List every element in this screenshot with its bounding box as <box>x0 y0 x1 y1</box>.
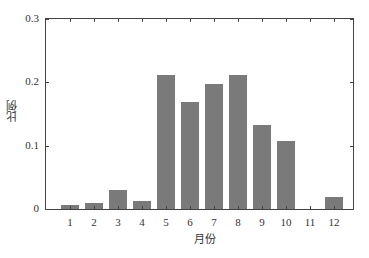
x-tick-label: 7 <box>204 216 224 228</box>
y-tick-label: 0.3 <box>9 12 39 24</box>
x-tick-mark <box>310 206 311 209</box>
y-axis-label: 比例 <box>4 100 20 122</box>
bar-9 <box>253 125 271 209</box>
x-tick-mark <box>238 206 239 209</box>
x-tick-mark <box>286 19 287 22</box>
y-tick-mark <box>46 82 49 83</box>
x-tick-mark <box>94 19 95 22</box>
y-tick-label: 0.1 <box>9 139 39 151</box>
x-tick-mark <box>214 206 215 209</box>
x-tick-mark <box>94 206 95 209</box>
y-tick-mark <box>350 19 353 20</box>
x-tick-mark <box>70 19 71 22</box>
x-tick-mark <box>334 19 335 22</box>
x-tick-mark <box>262 206 263 209</box>
y-tick-mark <box>46 146 49 147</box>
x-tick-label: 5 <box>156 216 176 228</box>
x-tick-mark <box>118 19 119 22</box>
bar-5 <box>157 75 175 209</box>
x-tick-label: 3 <box>108 216 128 228</box>
x-tick-label: 11 <box>300 216 320 228</box>
bar-8 <box>229 75 247 209</box>
x-tick-mark <box>166 206 167 209</box>
x-tick-mark <box>190 19 191 22</box>
x-tick-label: 12 <box>324 216 344 228</box>
x-tick-mark <box>310 19 311 22</box>
y-tick-mark <box>350 209 353 210</box>
x-tick-mark <box>190 206 191 209</box>
bar-7 <box>205 84 223 209</box>
x-tick-label: 6 <box>180 216 200 228</box>
bar-10 <box>277 141 295 209</box>
y-tick-mark <box>350 146 353 147</box>
x-tick-mark <box>70 206 71 209</box>
x-tick-mark <box>334 206 335 209</box>
x-tick-label: 4 <box>132 216 152 228</box>
y-tick-label: 0 <box>9 202 39 214</box>
x-tick-mark <box>214 19 215 22</box>
y-tick-mark <box>46 19 49 20</box>
x-tick-mark <box>118 206 119 209</box>
x-tick-mark <box>262 19 263 22</box>
y-tick-mark <box>46 209 49 210</box>
x-tick-label: 2 <box>84 216 104 228</box>
y-tick-label: 0.2 <box>9 75 39 87</box>
x-tick-mark <box>286 206 287 209</box>
x-tick-label: 1 <box>60 216 80 228</box>
x-axis-label: 月份 <box>180 230 230 246</box>
x-tick-mark <box>142 19 143 22</box>
x-tick-mark <box>142 206 143 209</box>
x-tick-label: 9 <box>252 216 272 228</box>
plot-area <box>45 18 354 210</box>
x-tick-mark <box>166 19 167 22</box>
y-tick-mark <box>350 82 353 83</box>
x-tick-label: 8 <box>228 216 248 228</box>
x-tick-mark <box>238 19 239 22</box>
x-tick-label: 10 <box>276 216 296 228</box>
bar-6 <box>181 102 199 209</box>
